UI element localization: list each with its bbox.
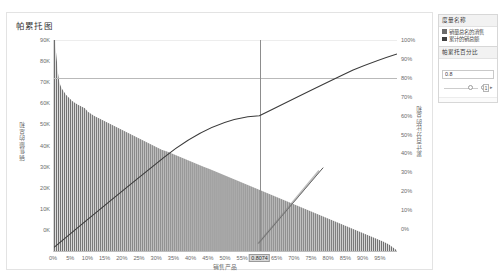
legend-item-label: 销量总名的消售: [449, 29, 484, 35]
y-axis-title: 销售额的总和: [17, 122, 26, 161]
y2-axis-title: 累计百分比的总和: [414, 105, 423, 157]
legend-swatch-cumulative: [442, 37, 447, 42]
bar-series-sales: [54, 40, 397, 251]
y2-tick-20: 20%: [401, 188, 412, 194]
stepper-control[interactable]: 1 ▸: [483, 84, 493, 92]
pareto-percent-input[interactable]: [442, 70, 494, 79]
y2-tick-40: 40%: [401, 150, 412, 156]
x-tick-65: 65%: [271, 255, 282, 261]
x-tick-10: 10%: [82, 255, 93, 261]
x-tick-75: 75%: [305, 255, 316, 261]
y-tick-10k: 10K: [40, 206, 50, 212]
reference-line-vertical-60: [260, 40, 261, 251]
y2-tick-30: 30%: [401, 169, 412, 175]
filter-panel-header: 帕累托百分比: [439, 47, 497, 59]
legend-panel-header: 度量名称: [439, 15, 497, 27]
x-tick-30: 30%: [151, 255, 162, 261]
x-tick-15: 15%: [99, 255, 110, 261]
x-tick-40: 40%: [185, 255, 196, 261]
pareto-percent-filter-panel: 帕累托百分比 1 ▸: [438, 46, 498, 103]
y-tick-50k: 50K: [40, 121, 50, 127]
legend-panel: 度量名称 销量总名的消售 累计的销总额: [438, 14, 498, 48]
stepper-value[interactable]: 1: [483, 84, 489, 92]
x-tick-selected[interactable]: 0.8074: [249, 254, 270, 262]
filter-panel-footer: [439, 97, 497, 102]
y-tick-80k: 80K: [40, 58, 50, 64]
dashboard-root: 帕累托图 销售额的总和 累计百分比的总和 销售产品 90K 80K 70K 60…: [0, 0, 503, 280]
x-tick-25: 25%: [133, 255, 144, 261]
page-title: 帕累托图: [16, 19, 53, 31]
legend-item-label: 累计的销总额: [449, 36, 479, 42]
x-tick-95: 95%: [374, 255, 385, 261]
y-tick-0k: 0K: [43, 227, 50, 233]
x-tick-50: 50%: [219, 255, 230, 261]
x-tick-55: 55%: [237, 255, 248, 261]
y2-tick-70: 70%: [401, 94, 412, 100]
x-tick-35: 35%: [168, 255, 179, 261]
legend-items: 销量总名的消售 累计的销总额: [439, 27, 497, 47]
x-tick-90: 90%: [357, 255, 368, 261]
y2-tick-0: 0%: [401, 226, 409, 232]
x-tick-85: 85%: [340, 255, 351, 261]
y2-tick-50: 50%: [401, 132, 412, 138]
y-tick-70k: 70K: [40, 79, 50, 85]
x-tick-45: 45%: [202, 255, 213, 261]
filter-panel-body: 1 ▸: [439, 59, 497, 97]
legend-item-cumulative[interactable]: 累计的销总额: [442, 36, 494, 42]
slider-handle-left[interactable]: [468, 85, 473, 90]
y2-tick-60: 60%: [401, 113, 412, 119]
y-tick-20k: 20K: [40, 185, 50, 191]
y2-tick-80: 80%: [401, 75, 412, 81]
legend-item-sales[interactable]: 销量总名的消售: [442, 29, 494, 35]
x-tick-20: 20%: [116, 255, 127, 261]
pareto-chart-card: 帕累托图 销售额的总和 累计百分比的总和 销售产品 90K 80K 70K 60…: [6, 12, 433, 270]
y-tick-90k: 90K: [40, 37, 50, 43]
plot-area-wrapper: 90K 80K 70K 60K 50K 40K 30K 20K 10K 0K 1…: [53, 40, 397, 252]
x-axis-title: 销售产品: [53, 262, 397, 271]
y-tick-40k: 40K: [40, 143, 50, 149]
x-tick-70: 70%: [288, 255, 299, 261]
y2-tick-10: 10%: [401, 207, 412, 213]
x-tick-80: 80%: [323, 255, 334, 261]
reference-line-horizontal-80: [54, 78, 397, 79]
legend-swatch-sales: [442, 29, 447, 34]
pareto-percent-slider[interactable]: 1 ▸: [442, 83, 494, 95]
y-tick-30k: 30K: [40, 164, 50, 170]
plot-canvas[interactable]: [53, 40, 397, 252]
x-tick-5: 5%: [66, 255, 74, 261]
x-tick-0: 0%: [49, 255, 57, 261]
y2-tick-90: 90%: [401, 56, 412, 62]
chevron-right-icon[interactable]: ▸: [490, 84, 493, 92]
y-tick-60k: 60K: [40, 100, 50, 106]
y2-tick-100: 100%: [401, 37, 415, 43]
